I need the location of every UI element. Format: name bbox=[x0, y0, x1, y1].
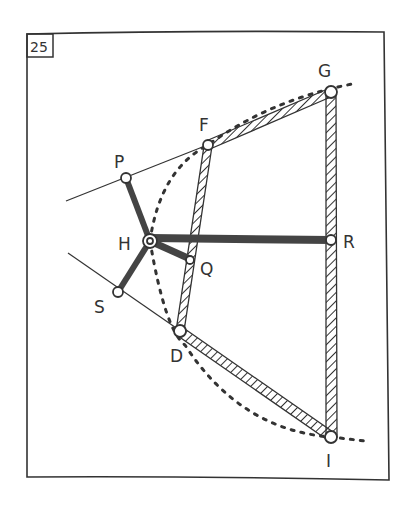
panel-number: 25 bbox=[30, 39, 48, 55]
label-G: G bbox=[318, 61, 331, 81]
joint-G bbox=[325, 86, 337, 98]
joint-I bbox=[325, 431, 337, 443]
diagram-canvas: 25 P F G H Q R S D I bbox=[0, 0, 407, 516]
label-H: H bbox=[118, 234, 131, 254]
bar-H-P bbox=[126, 178, 150, 241]
dotted-arc-top bbox=[150, 84, 352, 241]
joint-P bbox=[121, 173, 131, 183]
joint-D bbox=[174, 325, 186, 337]
guide-line-upper bbox=[66, 144, 210, 201]
label-Q: Q bbox=[200, 259, 213, 279]
bar-G-I bbox=[326, 93, 337, 437]
guide-line-lower bbox=[68, 253, 182, 332]
joint-S bbox=[113, 287, 123, 297]
joint-Q bbox=[186, 256, 194, 264]
joint-F bbox=[203, 140, 213, 150]
label-F: F bbox=[199, 115, 209, 135]
bar-D-I bbox=[178, 327, 333, 441]
bar-F-G bbox=[206, 88, 333, 149]
label-P: P bbox=[114, 152, 124, 172]
label-D: D bbox=[170, 346, 183, 366]
bar-H-R bbox=[150, 238, 331, 240]
label-I: I bbox=[326, 451, 331, 471]
joint-H-inner bbox=[147, 238, 153, 244]
label-S: S bbox=[94, 297, 105, 317]
label-R: R bbox=[343, 232, 355, 252]
joint-R bbox=[326, 235, 336, 245]
